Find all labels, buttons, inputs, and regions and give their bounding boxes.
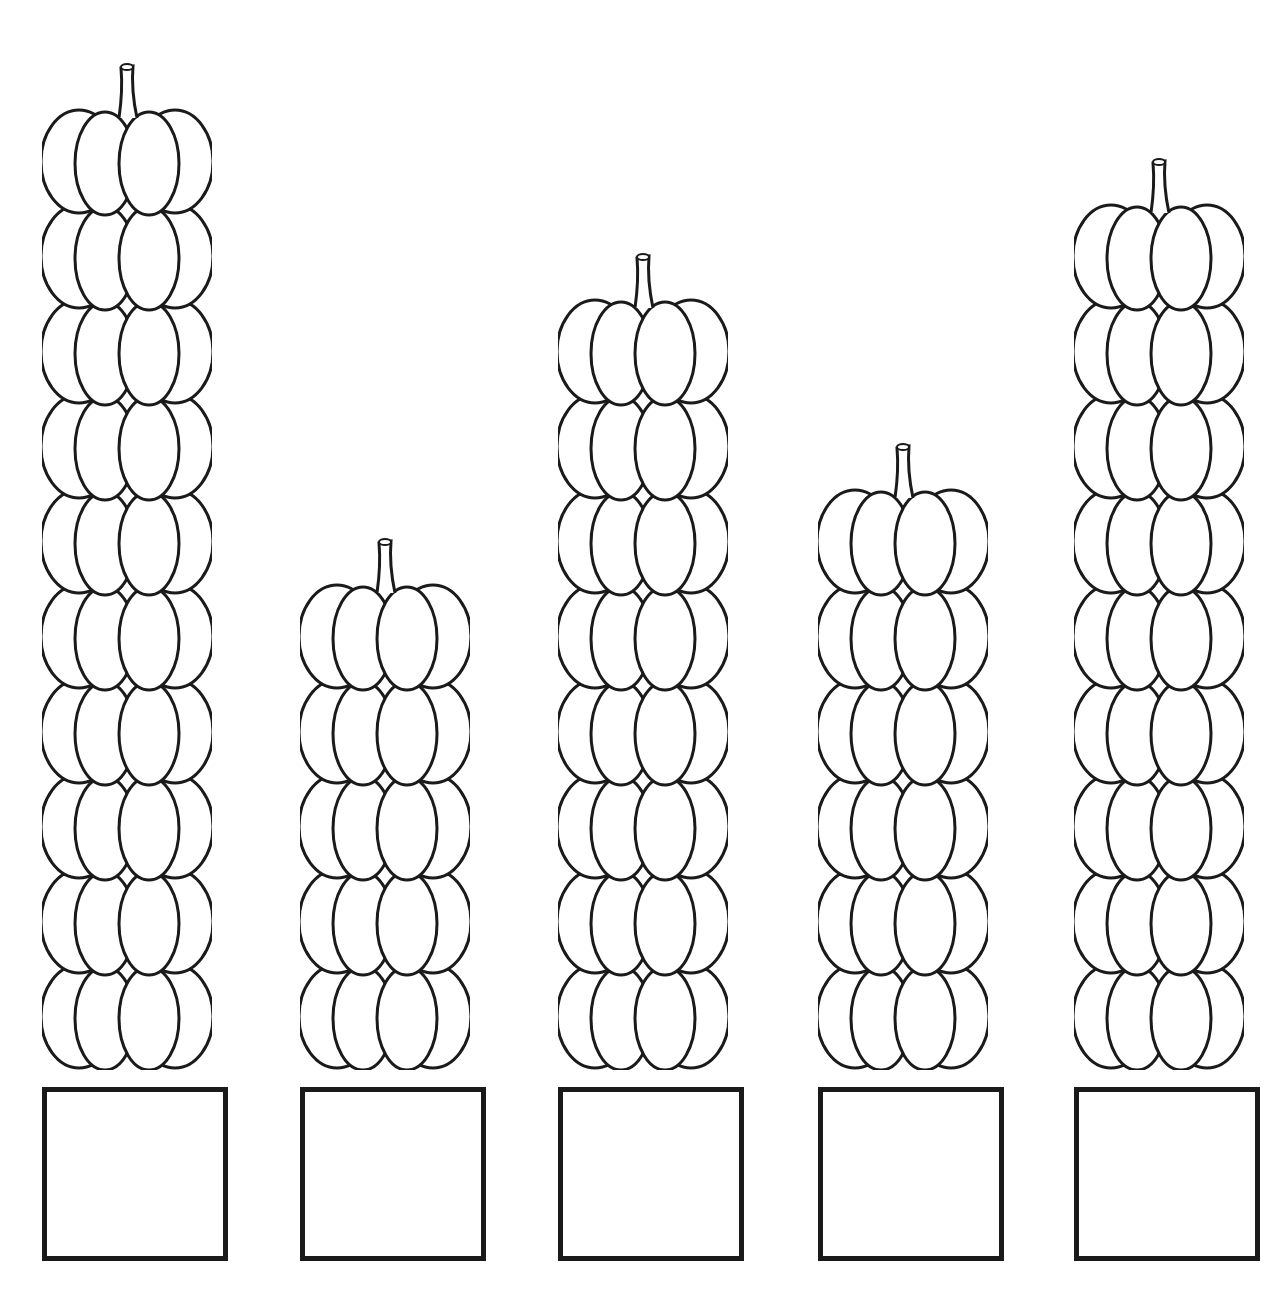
pumpkin-stack-1 <box>42 60 212 1070</box>
answer-box-3[interactable] <box>558 1087 744 1261</box>
pumpkin-stack-5 <box>1074 155 1244 1070</box>
answer-box-1[interactable] <box>42 1087 228 1261</box>
pumpkin-stack-3 <box>558 250 728 1070</box>
answer-box-4[interactable] <box>818 1087 1004 1261</box>
answer-box-2[interactable] <box>300 1087 486 1261</box>
pumpkin-icon <box>42 60 212 1070</box>
pumpkin-stack-2 <box>300 535 470 1070</box>
pumpkin-icon <box>300 535 470 1070</box>
answer-box-5[interactable] <box>1074 1087 1260 1261</box>
pumpkin-icon <box>1074 155 1244 1070</box>
pumpkin-icon <box>818 440 988 1070</box>
pumpkin-stack-4 <box>818 440 988 1070</box>
pumpkin-icon <box>558 250 728 1070</box>
